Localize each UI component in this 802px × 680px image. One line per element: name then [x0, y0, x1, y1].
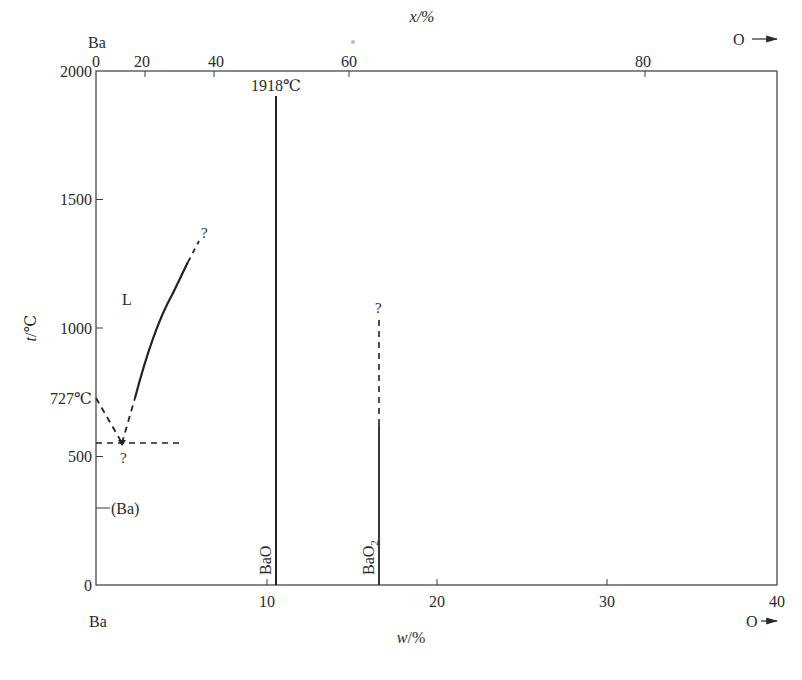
ba-liquidus-dashed: [96, 398, 122, 443]
liquidus-upper-dashed: [188, 241, 199, 262]
bottom-right-element-o: O: [746, 613, 758, 630]
top-axis-title: x/%: [409, 8, 435, 25]
plot-frame: [96, 71, 777, 585]
y-tick-1000: 1000: [60, 320, 92, 337]
top-axis-ticks: [145, 71, 645, 77]
liquidus-solid: [135, 262, 188, 398]
y-axis-title: t/℃: [22, 315, 39, 342]
top-tick-80: 80: [635, 53, 651, 70]
y-tick-0: 0: [84, 577, 92, 594]
y-axis-ticks: [96, 200, 103, 457]
top-tick-40: 40: [208, 53, 224, 70]
liquidus-lower-dashed: [122, 398, 135, 443]
bao-melting-label: 1918℃: [251, 77, 301, 94]
scan-artifact-dot: [351, 40, 355, 44]
top-tick-60: 60: [341, 53, 357, 70]
top-left-element-ba: Ba: [88, 34, 106, 51]
liquid-region-label: L: [122, 291, 132, 308]
svg-text:BaO2: BaO2: [360, 540, 380, 575]
y-tick-500: 500: [68, 448, 92, 465]
eutectic-question-mark: ?: [120, 450, 127, 466]
y-tick-1500: 1500: [60, 191, 92, 208]
ba-solid-solution-label: (Ba): [111, 500, 139, 518]
bottom-left-element-ba: Ba: [89, 613, 107, 630]
x-axis-ticks: [267, 579, 607, 585]
bao2-question-mark: ?: [375, 300, 382, 316]
bao2-label: BaO2: [360, 540, 380, 575]
x-tick-20: 20: [429, 593, 445, 610]
x-tick-10: 10: [259, 593, 275, 610]
y-tick-2000: 2000: [60, 63, 92, 80]
bao-label: BaO: [257, 546, 274, 575]
x-tick-30: 30: [599, 593, 615, 610]
liquidus-question-mark: ?: [201, 225, 208, 241]
x-tick-40: 40: [769, 593, 785, 610]
ba-melting-label: 727℃: [50, 390, 92, 407]
x-axis-title: w/%: [397, 629, 425, 646]
phase-diagram: 2000 1500 1000 500 0 727℃ t/℃ 10 20 30 4…: [0, 0, 802, 680]
top-right-element-o: O: [733, 31, 745, 48]
top-tick-20: 20: [134, 53, 150, 70]
top-tick-0: 0: [92, 53, 100, 70]
svg-text:t/℃: t/℃: [22, 315, 39, 342]
svg-text:BaO: BaO: [257, 546, 274, 575]
